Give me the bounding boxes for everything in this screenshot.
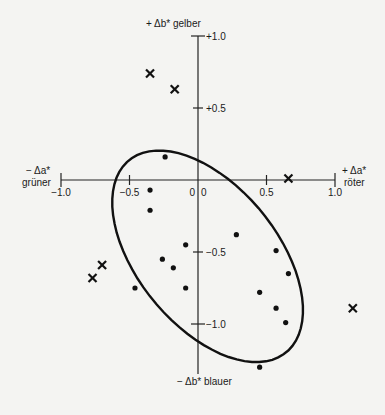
y-tick-label: +1.0 [206,31,226,42]
data-point-cross [89,274,97,282]
data-point-dot [183,242,188,247]
data-point-dot [286,271,291,276]
data-point-dot [163,154,168,159]
data-point-dot [234,232,239,237]
y-axis-label-positive: + Δb* gelber [146,18,201,29]
data-point-dot [147,208,152,213]
x-axis-label-negative: − Δa* [26,165,50,176]
data-point-cross [98,261,106,269]
x-axis-label-positive: + Δa* [342,165,366,176]
data-point-dot [160,257,165,262]
axes: −1.0−0.50.51.000+1.0+0.5−0.5−1.0 [51,31,342,374]
data-point-cross [146,69,154,77]
x-tick-label: −0.5 [120,187,140,198]
data-point-dot [283,320,288,325]
y-tick-label: +0.5 [206,103,226,114]
x-axis-label-negative-word: grüner [22,177,52,188]
x-tick-label: 1.0 [328,187,342,198]
data-point-dot [273,248,278,253]
origin-label-y: 0 [201,187,207,198]
y-axis-label-negative: − Δb* blauer [177,376,232,387]
data-point-cross [171,85,179,93]
data-point-dot [273,306,278,311]
data-point-dot [257,290,262,295]
x-tick-label: −1.0 [51,187,71,198]
data-point-dot [132,285,137,290]
data-point-dot [183,285,188,290]
y-tick-label: −0.5 [206,247,226,258]
data-point-cross [284,175,292,183]
data-point-cross [349,304,357,312]
data-point-dot [257,365,262,370]
data-point-dot [147,187,152,192]
y-tick-label: −1.0 [206,319,226,330]
data-point-dot [171,265,176,270]
origin-label-x: 0 [189,187,195,198]
scatter-chart: −1.0−0.50.51.000+1.0+0.5−0.5−1.0 + Δb* g… [0,0,385,415]
x-tick-label: 0.5 [260,187,274,198]
x-axis-label-positive-word: röter [344,177,365,188]
